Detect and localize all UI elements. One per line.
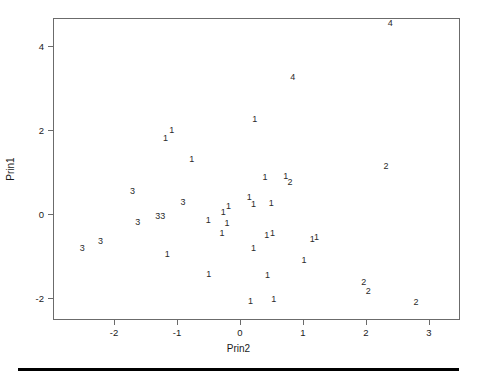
- data-point: 1: [265, 271, 270, 280]
- data-point: 1: [206, 269, 211, 278]
- data-point: 1: [301, 255, 306, 264]
- data-point: 4: [290, 73, 295, 82]
- data-point: 1: [220, 229, 225, 238]
- data-point: 1: [225, 218, 230, 227]
- data-point: 1: [262, 173, 267, 182]
- scatter-plot-figure: 441111211231311113331111111331111122112 …: [0, 0, 477, 385]
- data-point: 3: [80, 244, 85, 253]
- data-point: 3: [160, 212, 165, 221]
- data-point: 1: [251, 244, 256, 253]
- data-point: 2: [414, 297, 419, 306]
- data-point: 1: [206, 216, 211, 225]
- x-axis-tick-label: 3: [426, 327, 431, 338]
- data-point: 4: [388, 18, 393, 27]
- data-point: 1: [221, 208, 226, 217]
- x-axis-tick: [240, 320, 241, 325]
- x-axis-tick: [366, 320, 367, 325]
- x-axis-tick: [303, 320, 304, 325]
- x-axis-tick: [177, 320, 178, 325]
- x-axis-title: Prin2: [0, 343, 477, 354]
- y-axis-tick-label: 0: [39, 209, 44, 220]
- x-axis-tick-label: 1: [300, 327, 305, 338]
- y-axis-title: Prin1: [5, 157, 16, 180]
- data-point: 1: [269, 199, 274, 208]
- plot-frame: 441111211231311113331111111331111122112: [53, 18, 460, 320]
- data-point: 2: [383, 161, 388, 170]
- data-point: 3: [98, 236, 103, 245]
- data-point: 1: [270, 228, 275, 237]
- y-axis-tick: [48, 214, 53, 215]
- data-point: 3: [181, 198, 186, 207]
- x-axis-tick-label: -1: [173, 327, 181, 338]
- data-point: 1: [248, 296, 253, 305]
- data-point: 2: [366, 286, 371, 295]
- data-point: 1: [165, 249, 170, 258]
- data-point: 3: [135, 217, 140, 226]
- x-axis-tick: [114, 320, 115, 325]
- x-axis-tick: [429, 320, 430, 325]
- footer-rule: [18, 368, 459, 371]
- data-points-layer: 441111211231311113331111111331111122112: [54, 19, 459, 319]
- x-axis-tick-label: 2: [363, 327, 368, 338]
- data-point: 1: [264, 231, 269, 240]
- data-point: 1: [251, 199, 256, 208]
- y-axis-tick: [48, 298, 53, 299]
- data-point: 1: [252, 115, 257, 124]
- data-point: 1: [189, 155, 194, 164]
- data-point: 1: [314, 232, 319, 241]
- data-point: 1: [226, 201, 231, 210]
- data-point: 2: [288, 178, 293, 187]
- data-point: 1: [169, 126, 174, 135]
- y-axis-tick: [48, 46, 53, 47]
- y-axis-tick-label: 4: [39, 41, 44, 52]
- x-axis-tick-label: 0: [237, 327, 242, 338]
- y-axis-tick-label: -2: [36, 293, 44, 304]
- data-point: 1: [271, 295, 276, 304]
- y-axis-tick: [48, 130, 53, 131]
- y-axis-tick-label: 2: [39, 125, 44, 136]
- data-point: 1: [163, 134, 168, 143]
- x-axis-tick-label: -2: [110, 327, 118, 338]
- data-point: 3: [130, 187, 135, 196]
